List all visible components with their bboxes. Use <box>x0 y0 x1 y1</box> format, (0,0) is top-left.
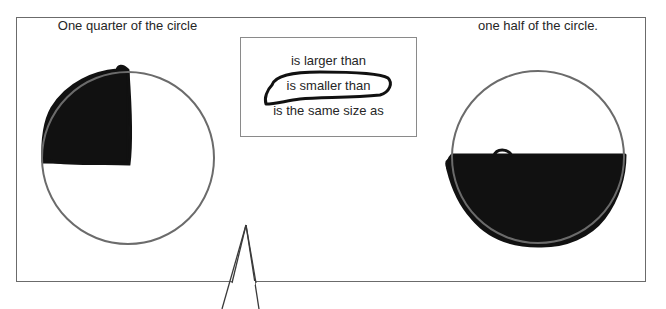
diagram-drawing <box>0 0 666 309</box>
left-quarter-shading <box>43 66 128 163</box>
selection-loop <box>265 72 390 104</box>
callout-pointer <box>222 225 259 309</box>
left-circle <box>42 66 214 244</box>
right-circle <box>447 71 625 246</box>
right-half-shading <box>447 155 625 246</box>
